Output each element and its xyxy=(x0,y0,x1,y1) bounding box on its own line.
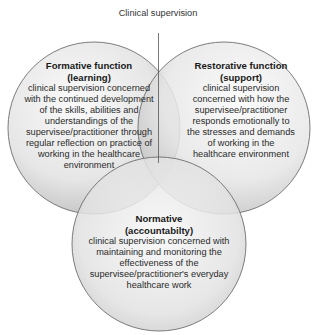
formative-title-line1: Formative function xyxy=(14,60,164,72)
restorative-title-line1: Restorative function xyxy=(182,60,300,72)
restorative-label: Restorative function (support) clinical … xyxy=(182,60,300,160)
restorative-description: clinical supervision concerned with how … xyxy=(182,83,300,160)
formative-title-line2: (learning) xyxy=(14,72,164,84)
normative-description: clinical supervision concerned with main… xyxy=(82,236,236,291)
normative-title-line2: (accountabilty) xyxy=(94,225,224,237)
restorative-title-line2: (support) xyxy=(182,72,300,84)
formative-label: Formative function (learning) clinical s… xyxy=(14,60,164,171)
normative-label: Normative (accountabilty) clinical super… xyxy=(94,213,224,291)
top-label: Clinical supervision xyxy=(118,8,198,19)
formative-description: clinical supervision concerned with the … xyxy=(14,83,164,171)
normative-title-line1: Normative xyxy=(94,213,224,225)
